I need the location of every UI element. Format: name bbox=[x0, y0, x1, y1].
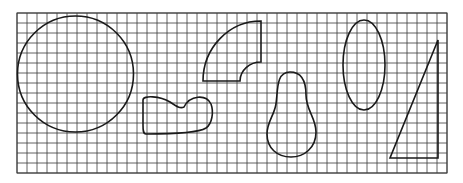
grid-figure bbox=[0, 0, 463, 183]
grid-lines bbox=[17, 13, 447, 173]
figure-canvas bbox=[0, 0, 463, 183]
shapes-group bbox=[18, 16, 439, 158]
quarter-annulus bbox=[203, 21, 261, 81]
ellipse bbox=[343, 20, 385, 110]
irregular-blob bbox=[143, 97, 212, 134]
circle bbox=[18, 16, 134, 132]
pear-shape bbox=[267, 72, 316, 157]
